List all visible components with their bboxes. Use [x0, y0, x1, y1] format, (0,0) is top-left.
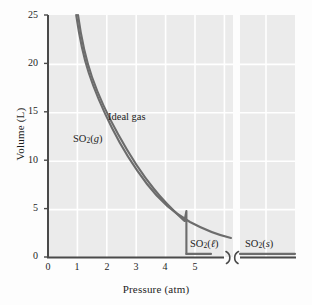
- plot-background-right: [240, 15, 295, 257]
- so2-solid-label: SO2(s): [245, 238, 273, 250]
- volume-pressure-chart: [0, 0, 312, 305]
- ideal-gas-label: Ideal gas: [108, 111, 146, 122]
- x-tick-label-1: 1: [65, 261, 89, 272]
- y-tick-label-20: 20: [12, 57, 38, 68]
- y-tick-label-0: 0: [12, 250, 38, 261]
- x-axis-title: Pressure (atm): [0, 283, 312, 295]
- y-tick-label-25: 25: [12, 9, 38, 20]
- so2-liquid-label: SO2(ℓ): [190, 238, 219, 250]
- so2-gas-label: SO2(g): [73, 133, 102, 145]
- x-tick-label-0: 0: [36, 261, 60, 272]
- x-tick-label-4: 4: [153, 261, 177, 272]
- x-tick-label-2: 2: [95, 261, 119, 272]
- y-axis-title: Volume (L): [14, 74, 26, 194]
- figure-container: 25 20 15 10 5 0 0 1 2 3 4 5 Pressure (at…: [0, 0, 312, 305]
- x-tick-label-5: 5: [183, 261, 207, 272]
- y-tick-label-5: 5: [12, 202, 38, 213]
- x-tick-label-3: 3: [124, 261, 148, 272]
